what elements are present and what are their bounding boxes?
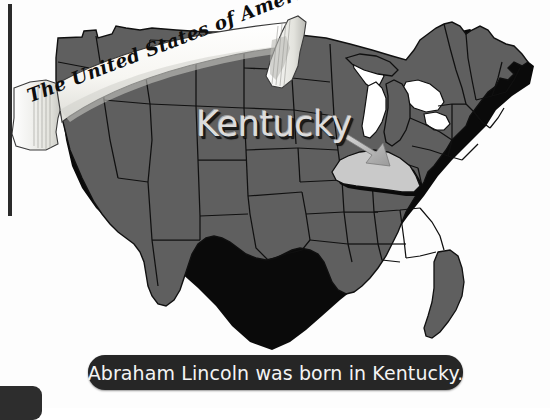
- left-vertical-rule: [8, 4, 12, 216]
- state-label-kentucky: Kentucky: [196, 104, 352, 144]
- corner-block: [0, 386, 42, 420]
- caption-text: Abraham Lincoln was born in Kentucky.: [88, 362, 464, 384]
- state-florida: [424, 250, 464, 338]
- caption-bar: Abraham Lincoln was born in Kentucky.: [88, 355, 463, 390]
